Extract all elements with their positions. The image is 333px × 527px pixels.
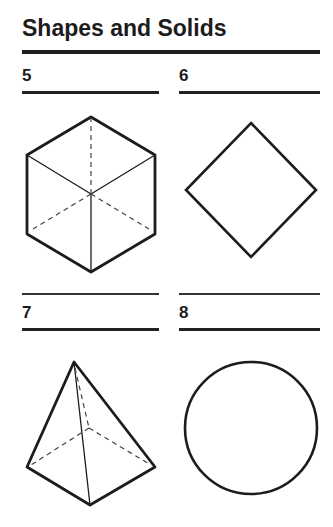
shapes-canvas [0, 0, 333, 527]
circle-icon [185, 362, 317, 494]
cube-icon [27, 117, 155, 272]
square-icon [186, 123, 316, 257]
pyramid-icon [27, 362, 155, 505]
